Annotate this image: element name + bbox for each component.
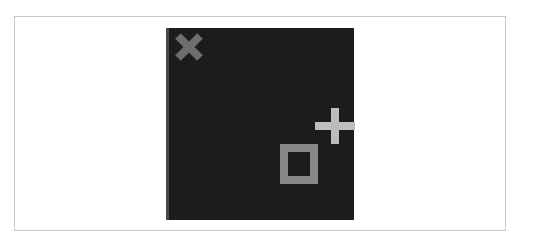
square-icon <box>280 144 318 184</box>
plus-icon <box>315 108 355 144</box>
game-board[interactable] <box>166 28 354 220</box>
x-icon <box>174 32 204 62</box>
